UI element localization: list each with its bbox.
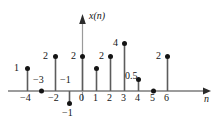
value-label-neg1: −1 — [60, 75, 71, 85]
dot-3 — [122, 41, 127, 46]
x-axis-title: n — [204, 94, 209, 104]
tick-label-5: 5 — [150, 93, 155, 103]
value-label-neg2: 2 — [43, 51, 48, 61]
tick-label-neg1: −1 — [62, 108, 73, 118]
dot-neg2 — [53, 54, 58, 59]
value-label-2: 2 — [99, 51, 104, 61]
stem-plot-figure: 1 −3 2 −1 2 2 4 0.5 2 −4 −2 −1 0 1 2 3 4… — [0, 0, 219, 129]
tick-label-2: 2 — [107, 93, 112, 103]
y-axis-arrow — [79, 14, 86, 24]
value-label-4: 0.5 — [125, 71, 138, 81]
tick-label-neg2: −2 — [48, 93, 59, 103]
tick-label-3: 3 — [121, 93, 126, 103]
plot-canvas — [0, 0, 219, 129]
dot-1 — [94, 66, 99, 71]
dot-neg1 — [67, 101, 72, 106]
value-label-neg3: −3 — [33, 75, 44, 85]
dot-neg3 — [39, 89, 44, 94]
dot-0 — [80, 54, 85, 59]
value-label-0: 2 — [71, 51, 76, 61]
dot-6 — [165, 54, 170, 59]
tick-label-0: 0 — [79, 93, 84, 103]
value-label-neg4: 1 — [14, 63, 19, 73]
y-axis-title: x(n) — [89, 11, 105, 21]
tick-label-4: 4 — [135, 93, 140, 103]
tick-label-1: 1 — [93, 93, 98, 103]
tick-label-6: 6 — [164, 93, 169, 103]
dot-neg4 — [25, 66, 30, 71]
tick-label-neg4: −4 — [20, 93, 31, 103]
dot-2 — [108, 54, 113, 59]
value-label-3: 4 — [113, 38, 118, 48]
value-label-6: 2 — [156, 51, 161, 61]
